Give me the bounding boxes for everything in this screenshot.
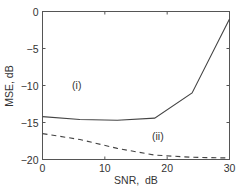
mse-vs-snr-chart: 0−5−10−15−20 0102030 (i)(ii) SNR, dB MSE… [0,0,243,193]
x-tick-label: 10 [99,162,111,174]
y-axis-label: MSE, dB [3,65,15,106]
y-tick-label: −5 [27,43,39,55]
y-tick-label: 0 [33,6,39,18]
x-tick-label: 0 [40,162,46,174]
x-axis-label: SNR, dB [114,174,158,186]
curve-annotation: (i) [72,79,81,91]
x-tick-label: 20 [161,162,173,174]
y-tick-label: −15 [21,117,39,129]
curve-annotation: (ii) [152,130,164,142]
y-tick-label: −20 [21,154,39,166]
plot-area-frame [43,12,230,160]
x-tick-label: 30 [224,162,236,174]
y-tick-label: −10 [21,80,39,92]
